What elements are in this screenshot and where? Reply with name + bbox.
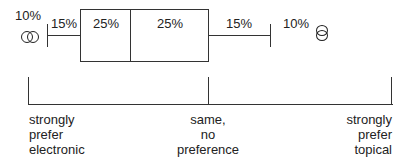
outlier-circle-icon bbox=[27, 31, 39, 43]
scale-left-line-3: electronic bbox=[29, 142, 85, 157]
scale-center-label: same, no preference bbox=[168, 112, 248, 157]
high-outlier-markers bbox=[316, 25, 330, 43]
upper-whisker-percent: 15% bbox=[226, 17, 252, 31]
scale-left-tick bbox=[28, 77, 29, 105]
scale-right-label: strongly prefer topical bbox=[310, 112, 392, 157]
scale-left-line-2: prefer bbox=[29, 127, 85, 142]
outlier-circle-icon bbox=[316, 30, 328, 41]
scale-right-tick bbox=[391, 77, 392, 105]
scale-center-tick bbox=[208, 77, 209, 105]
scale-right-line-1: strongly bbox=[310, 112, 392, 127]
scale-left-line-1: strongly bbox=[29, 112, 85, 127]
scale-right-line-3: topical bbox=[310, 142, 392, 157]
scale-baseline bbox=[28, 104, 393, 105]
scale-left-label: strongly prefer electronic bbox=[29, 112, 85, 157]
lower-whisker-percent: 15% bbox=[51, 17, 77, 31]
scale-right-line-2: prefer bbox=[310, 127, 392, 142]
scale-center-line-3: preference bbox=[168, 142, 248, 157]
scale-center-line-2: no bbox=[168, 127, 248, 142]
lower-whisker-line bbox=[47, 35, 81, 36]
median-line bbox=[130, 9, 131, 62]
interquartile-box bbox=[80, 9, 209, 62]
low-outlier-markers bbox=[21, 31, 41, 44]
high-outliers-percent: 10% bbox=[283, 17, 309, 31]
upper-whisker-cap bbox=[270, 24, 271, 47]
low-outliers-percent: 10% bbox=[15, 9, 41, 23]
upper-whisker-line bbox=[208, 35, 270, 36]
scale-center-line-1: same, bbox=[168, 112, 248, 127]
